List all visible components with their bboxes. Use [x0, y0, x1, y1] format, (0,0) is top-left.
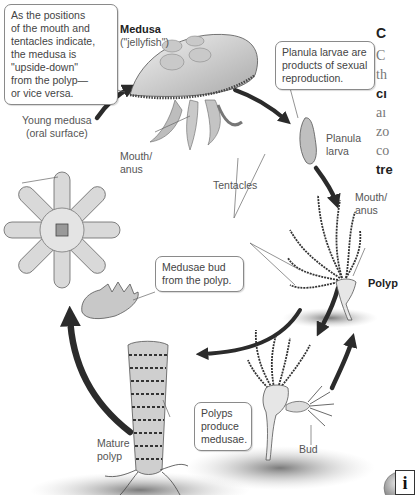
mouth-anus-polyp-label: Mouth/ anus	[355, 191, 387, 216]
callout-planula: Planula larvae are products of sexual re…	[275, 41, 375, 90]
mouth-anus-medusa-label: Mouth/ anus	[120, 150, 152, 175]
callout-orientation: As the positions of the mouth and tentac…	[4, 4, 118, 105]
info-icon: i	[402, 473, 407, 493]
young-medusa-illustration	[4, 172, 120, 288]
mature-polyp-label: Mature polyp	[97, 437, 130, 462]
planula-label: Planula larva	[326, 132, 361, 157]
callout-medusae-bud: Medusae bud from the polyp.	[155, 256, 244, 292]
medusa-title: Medusa	[120, 23, 161, 36]
polyp-illustration	[288, 195, 360, 288]
side-panel-heading: C	[376, 27, 386, 40]
callout-polyps-produce: Polyps produce medusae.	[194, 402, 252, 451]
tentacles-label: Tentacles	[213, 179, 257, 192]
bud-label: Bud	[299, 443, 318, 456]
budding-polyp-illustration	[248, 330, 334, 460]
medusae-bud-illustration	[82, 282, 139, 319]
medusa-subtitle: ("jellyfish")	[120, 36, 169, 49]
info-button[interactable]: i	[395, 470, 415, 495]
planula-larva-illustration	[300, 118, 317, 164]
young-medusa-label: Young medusa (oral surface)	[22, 114, 92, 139]
polyp-label: Polyp	[368, 277, 398, 290]
side-panel-text: C th cı aı zo co tre	[376, 46, 393, 179]
